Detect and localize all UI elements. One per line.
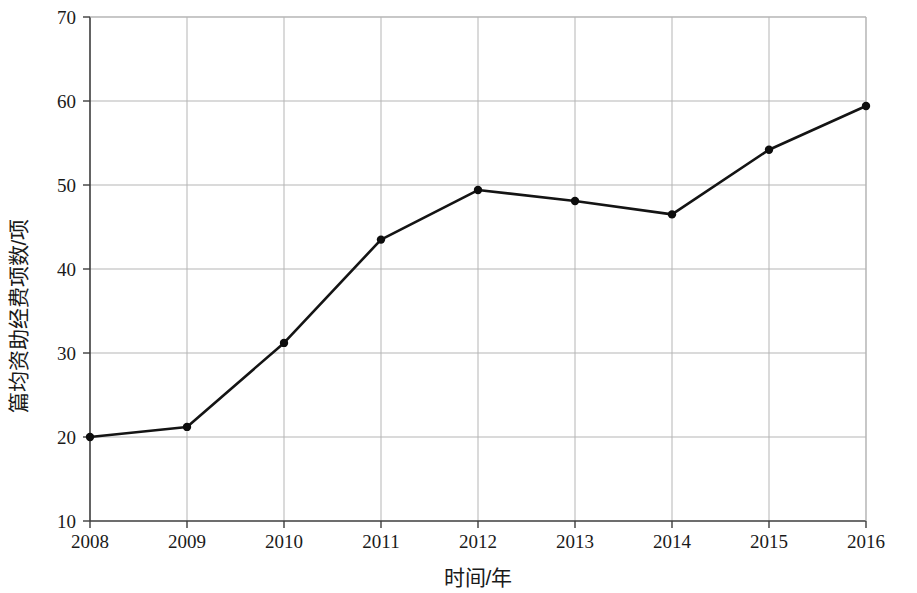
y-tick-label: 60	[57, 91, 76, 112]
x-axis-tick-labels: 200820092010201120122013201420152016	[71, 531, 885, 552]
y-axis-title: 篇均资助经费项数/项	[7, 219, 30, 414]
y-tick-label: 70	[57, 7, 76, 28]
data-point-marker	[862, 102, 870, 110]
x-tick-label: 2014	[653, 531, 692, 552]
y-tick-label: 20	[57, 427, 76, 448]
data-point-marker	[377, 235, 385, 243]
x-tick-label: 2013	[556, 531, 594, 552]
y-tick-label: 50	[57, 175, 76, 196]
data-point-marker	[183, 423, 191, 431]
x-axis-title: 时间/年	[444, 566, 513, 589]
chart-figure: 10203040506070 2008200920102011201220132…	[0, 0, 917, 593]
y-tick-label: 40	[57, 259, 76, 280]
chart-background	[0, 0, 917, 593]
x-tick-label: 2011	[362, 531, 399, 552]
x-tick-label: 2015	[750, 531, 788, 552]
x-tick-label: 2012	[459, 531, 497, 552]
data-point-marker	[668, 210, 676, 218]
data-point-marker	[280, 339, 288, 347]
data-point-marker	[571, 197, 579, 205]
x-tick-label: 2016	[847, 531, 885, 552]
line-chart-canvas: 10203040506070 2008200920102011201220132…	[0, 0, 917, 593]
x-tick-label: 2009	[168, 531, 206, 552]
data-point-marker	[765, 146, 773, 154]
data-point-marker	[86, 433, 94, 441]
x-tick-label: 2008	[71, 531, 109, 552]
data-point-marker	[474, 186, 482, 194]
y-tick-label: 30	[57, 343, 76, 364]
x-tick-label: 2010	[265, 531, 303, 552]
y-tick-label: 10	[57, 511, 76, 532]
